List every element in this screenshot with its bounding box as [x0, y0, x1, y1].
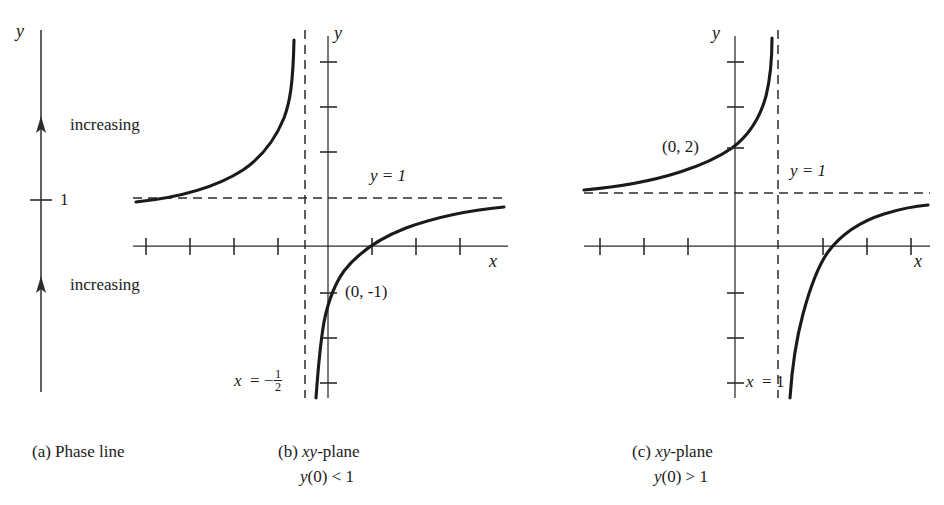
panel-c-va-equals-one: = 1	[758, 372, 785, 391]
panel-c-vertical-asymptote-label: x = 1	[746, 373, 784, 390]
panel-c-x-axis-label: x	[914, 252, 922, 270]
caption-b-line-1: (b) xy-plane	[278, 442, 360, 461]
panel-c-point-label: (0, 2)	[662, 138, 699, 155]
panel-c-y-axis	[727, 36, 744, 398]
caption-panel-c: (c) xy-plane y(0) > 1	[632, 440, 713, 489]
panel-c-va-x-symbol: x	[746, 372, 754, 391]
caption-a-line-1: (a) Phase line	[32, 442, 125, 461]
panel-c-curve-left-branch	[584, 38, 772, 190]
panel-c-y-axis-label: y	[712, 24, 720, 42]
panel-c-horizontal-asymptote-label: y = 1	[790, 162, 826, 179]
caption-c-line-1: (c) xy-plane	[632, 442, 713, 461]
panel-c-x-axis	[584, 238, 930, 255]
panel-c-xy-plane	[0, 0, 944, 505]
caption-c-line-2: y(0) > 1	[632, 465, 708, 490]
figure-container: y 1 increasing increasing	[0, 0, 944, 505]
caption-panel-a: (a) Phase line	[32, 440, 125, 465]
panel-c-curve-right-branch	[790, 205, 928, 398]
caption-panel-b: (b) xy-plane y(0) < 1	[278, 440, 360, 489]
caption-b-line-2: y(0) < 1	[278, 465, 354, 490]
